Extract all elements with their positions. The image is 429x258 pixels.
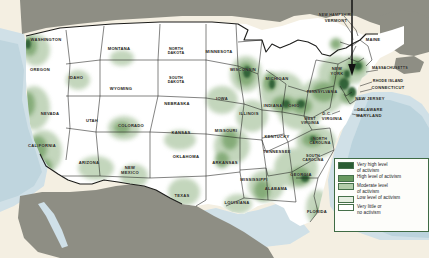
legend-swatch — [338, 175, 354, 182]
legend-item: Moderate level of activism — [338, 183, 425, 194]
legend-label: Low level of activism — [357, 195, 400, 201]
legend-rows: Very high level of activismHigh level of… — [338, 162, 425, 215]
legend-swatch — [338, 183, 354, 190]
legend-swatch — [338, 196, 354, 203]
legend-item: High level of activism — [338, 174, 425, 181]
legend-label: High level of activism — [357, 174, 401, 180]
legend-item: Low level of activism — [338, 195, 425, 202]
legend-label: Very high level of activism — [357, 162, 388, 173]
legend-swatch — [338, 204, 354, 211]
legend-item: Very high level of activism — [338, 162, 425, 173]
us-activism-map-figure: WASHINGTONOREGONCALIFORNIANEVADAIDAHOMON… — [0, 0, 429, 258]
legend-label: Very little or no activism — [357, 204, 382, 215]
legend-label: Moderate level of activism — [357, 183, 388, 194]
legend-swatch — [338, 162, 354, 169]
activism-level-legend: Very high level of activismHigh level of… — [334, 158, 429, 232]
legend-item: Very little or no activism — [338, 204, 425, 215]
